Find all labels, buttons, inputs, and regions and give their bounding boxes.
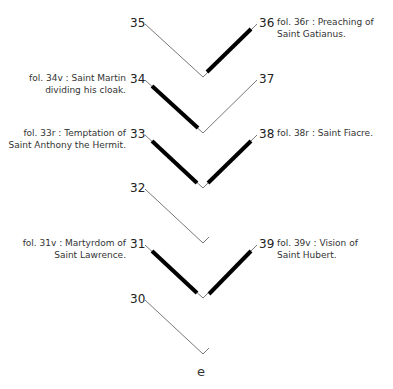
caption-line: fol. 34v : Saint Martin: [29, 72, 126, 84]
folio-number-38: 38: [259, 128, 274, 140]
caption-line: fol. 38r : Saint Fiacre.: [277, 127, 373, 139]
folio-number-35: 35: [130, 17, 145, 29]
caption-line: Saint Anthony the Hermit.: [9, 139, 126, 151]
caption-fol-38r: fol. 38r : Saint Fiacre.: [277, 127, 373, 139]
singleton-30: [145, 300, 209, 354]
caption-line: fol. 31v : Martyrdom of: [23, 237, 126, 249]
folio-number-36: 36: [259, 17, 274, 29]
bifolium-33-38: [145, 135, 257, 188]
folio-number-34: 34: [130, 73, 145, 85]
caption-fol-39v: fol. 39v : Vision of Saint Hubert.: [277, 237, 358, 261]
caption-line: fol. 33r : Temptation of: [9, 127, 126, 139]
gathering-label: e: [197, 364, 205, 379]
folio-number-33: 33: [130, 128, 145, 140]
bifolium-35-36: [145, 24, 257, 77]
bifolium-31-39: [145, 245, 257, 298]
singleton-32: [145, 189, 209, 243]
folio-number-30: 30: [130, 293, 145, 305]
folio-number-32: 32: [130, 182, 145, 194]
bifolium-34-37: [145, 80, 257, 133]
quire-diagram: [0, 0, 393, 389]
folio-number-39: 39: [259, 238, 274, 250]
caption-fol-33r: fol. 33r : Temptation of Saint Anthony t…: [9, 127, 126, 151]
caption-line: Saint Gatianus.: [277, 28, 374, 40]
caption-fol-31v: fol. 31v : Martyrdom of Saint Lawrence.: [23, 237, 126, 261]
caption-line: Saint Lawrence.: [23, 249, 126, 261]
caption-line: fol. 39v : Vision of: [277, 237, 358, 249]
caption-line: dividing his cloak.: [29, 84, 126, 96]
caption-line: Saint Hubert.: [277, 249, 358, 261]
caption-line: fol. 36r : Preaching of: [277, 16, 374, 28]
caption-fol-34v: fol. 34v : Saint Martin dividing his clo…: [29, 72, 126, 96]
folio-number-31: 31: [130, 238, 145, 250]
folio-number-37: 37: [259, 73, 274, 85]
caption-fol-36r: fol. 36r : Preaching of Saint Gatianus.: [277, 16, 374, 40]
